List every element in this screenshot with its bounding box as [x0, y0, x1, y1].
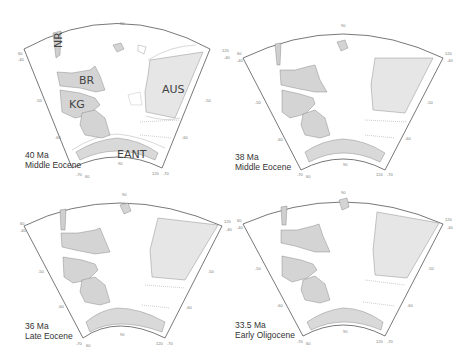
svg-text:-70: -70 — [387, 172, 394, 177]
map-panel-36ma: 90 60 -40 -50 -60 -70 60 90 120 -70 -60 … — [0, 180, 234, 360]
svg-text:120: 120 — [445, 51, 452, 56]
svg-text:60: 60 — [306, 341, 311, 346]
svg-text:120: 120 — [376, 172, 383, 177]
svg-text:-40: -40 — [447, 58, 454, 63]
age-label: 40 Ma Middle Eocene — [25, 150, 81, 170]
svg-text:-60: -60 — [407, 303, 414, 308]
map-panel-33-5ma: 90 60 -40 -50 -60 -70 60 90 120 -70 -60 … — [235, 180, 469, 360]
svg-text:60: 60 — [237, 218, 242, 223]
svg-text:-70: -70 — [76, 172, 83, 177]
svg-text:60: 60 — [18, 51, 23, 56]
svg-text:-40: -40 — [18, 57, 25, 62]
svg-text:-50: -50 — [427, 100, 434, 105]
svg-text:60: 60 — [86, 343, 91, 348]
age-label: 36 Ma Late Eocene — [25, 321, 73, 341]
svg-text:-60: -60 — [405, 136, 412, 141]
svg-text:-50: -50 — [208, 269, 215, 274]
svg-text:120: 120 — [224, 219, 231, 224]
svg-text:-60: -60 — [55, 135, 62, 140]
svg-text:90: 90 — [343, 162, 348, 167]
map-panel-38ma: 90 60 -40 -50 -60 -70 60 90 120 -70 -60 … — [235, 0, 469, 180]
svg-text:120: 120 — [376, 339, 383, 344]
svg-text:-70: -70 — [163, 171, 170, 176]
svg-text:90: 90 — [118, 161, 123, 166]
svg-text:-70: -70 — [297, 339, 304, 344]
svg-text:90: 90 — [343, 329, 348, 334]
svg-text:60: 60 — [85, 174, 90, 179]
svg-text:-70: -70 — [387, 339, 394, 344]
svg-text:60: 60 — [20, 221, 25, 226]
svg-text:60: 60 — [306, 174, 311, 179]
age-label: 33.5 Ma Early Oligocene — [235, 320, 295, 340]
map-panel-40ma: 90 60 -40 -50 -60 -70 60 90 120 -70 -60 … — [0, 0, 234, 180]
svg-text:120: 120 — [156, 341, 163, 346]
svg-text:-50: -50 — [255, 100, 262, 105]
label-eant: EANT — [117, 148, 147, 161]
label-aus: AUS — [162, 83, 185, 96]
svg-text:90: 90 — [120, 332, 125, 337]
svg-text:-70: -70 — [297, 172, 304, 177]
label-kg: KG — [69, 98, 85, 111]
svg-text:90: 90 — [122, 192, 127, 197]
svg-text:-40: -40 — [237, 225, 244, 230]
svg-text:-40: -40 — [20, 228, 27, 233]
svg-text:-40: -40 — [224, 55, 231, 60]
svg-text:60: 60 — [237, 51, 242, 56]
svg-text:-70: -70 — [167, 341, 174, 346]
svg-text:-70: -70 — [76, 341, 83, 346]
tick-top: 90 — [120, 21, 125, 26]
label-nr: NR — [52, 32, 65, 48]
svg-text:-40: -40 — [226, 227, 233, 232]
svg-text:-50: -50 — [38, 269, 45, 274]
svg-text:-60: -60 — [186, 305, 193, 310]
svg-text:90: 90 — [341, 23, 346, 28]
svg-text:-50: -50 — [428, 266, 435, 271]
svg-text:-50: -50 — [205, 98, 212, 103]
svg-text:-40: -40 — [237, 58, 244, 63]
svg-text:-60: -60 — [277, 303, 284, 308]
svg-text:90: 90 — [341, 190, 346, 195]
svg-text:-50: -50 — [255, 266, 262, 271]
label-br: BR — [79, 74, 95, 87]
age-label: 38 Ma Middle Eocene — [235, 152, 291, 172]
svg-text:-50: -50 — [36, 98, 43, 103]
svg-text:-60: -60 — [277, 137, 284, 142]
svg-text:120: 120 — [445, 217, 452, 222]
svg-text:120: 120 — [222, 48, 229, 53]
svg-text:120: 120 — [152, 171, 159, 176]
svg-text:-60: -60 — [182, 135, 189, 140]
svg-text:-40: -40 — [447, 225, 454, 230]
svg-text:-60: -60 — [58, 304, 65, 309]
